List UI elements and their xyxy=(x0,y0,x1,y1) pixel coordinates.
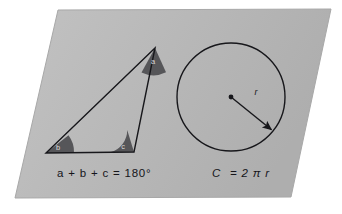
circle-formula-pi: π xyxy=(253,167,262,179)
triangle-formula: a + b + c = 180° xyxy=(57,167,151,179)
geometry-diagram: a b c a + b + c = 180° r C = 2 π r xyxy=(0,0,342,214)
angle-label-b: b xyxy=(56,143,60,152)
circle-formula-equals: = 2 xyxy=(230,167,249,179)
figure-canvas: a b c a + b + c = 180° r C = 2 π r xyxy=(0,0,342,214)
angle-label-c: c xyxy=(121,142,125,151)
circle-formula-r: r xyxy=(265,167,270,179)
circle-formula: C = 2 π r xyxy=(212,167,270,179)
circle-formula-c: C xyxy=(212,167,221,179)
